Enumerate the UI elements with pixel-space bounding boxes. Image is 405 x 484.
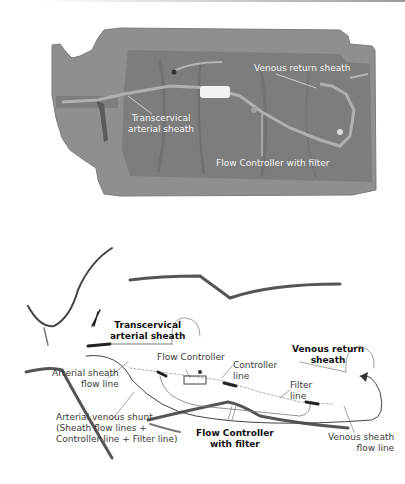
label-line: Controller line + Filter line) [56,434,178,445]
label-line: arterial sheath [110,331,185,342]
drawing-label-transcervical: Transcervical arterial sheath [110,320,185,342]
label-line: line [233,371,277,382]
label-line: Venous sheath [328,432,394,443]
label-line: flow line [328,443,394,454]
label-line: Flow Controller [196,428,274,439]
label-line: Transcervical [128,113,194,124]
label-line: with filter [196,439,274,450]
drawing-label-flow-controller: Flow Controller [157,352,225,363]
photo-label-transcervical: Transcervical arterial sheath [128,113,194,135]
label-line: line [290,391,312,402]
photo-label-venous-return: Venous return sheath [254,63,351,74]
label-line: Arterial venous shunt [56,412,178,423]
drawing-label-filter-line: Filter line [290,380,312,402]
label-line: Venous return [292,344,364,355]
photo-label-flow-controller: Flow Controller with filter [216,158,329,169]
label-line: Transcervical [110,320,185,331]
drawing-label-venous-flow-line: Venous sheath flow line [328,432,394,454]
label-line: sheath [292,355,364,366]
drawing-label-av-shunt: Arterial venous shunt (Sheath flow lines… [56,412,178,445]
mannequin-photo [52,28,376,196]
drawing-label-flow-controller-filter: Flow Controller with filter [196,428,274,450]
label-line: arterial sheath [128,124,194,135]
drawing-label-controller-line: Controller line [233,360,277,382]
drawing-label-venous-return: Venous return sheath [292,344,364,366]
label-line: flow line [52,379,119,390]
drawing-label-arterial-flow-line: Arterial sheath flow line [52,368,119,390]
label-line: Filter [290,380,312,391]
label-line: Arterial sheath [52,368,119,379]
label-line: Controller [233,360,277,371]
label-line: (Sheath flow lines + [56,423,178,434]
